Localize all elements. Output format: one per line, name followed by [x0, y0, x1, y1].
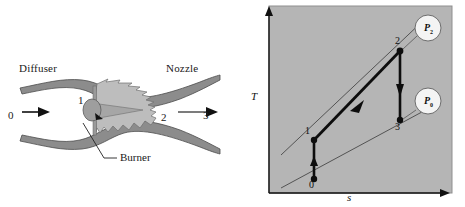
s-axis-label: s — [347, 192, 351, 203]
inlet-flow-arrow — [22, 107, 50, 117]
burner-callout-label: Burner — [120, 152, 151, 163]
t-axis-label: T — [251, 91, 257, 102]
state-label-0: 0 — [309, 180, 314, 190]
state-label-1: 1 — [305, 126, 310, 136]
ramjet-schematic-panel: Diffuser Nozzle 0 1 2 3 Burner — [0, 0, 233, 207]
station-label-1: 1 — [78, 95, 84, 106]
state-point-1 — [311, 137, 317, 143]
station-label-3: 3 — [203, 110, 209, 121]
state-point-2 — [397, 48, 404, 55]
station-label-0: 0 — [8, 110, 14, 121]
diffuser-label: Diffuser — [19, 63, 57, 74]
isobar-label-upper-text: P2 — [424, 23, 433, 35]
isobar-label-lower-sub: 0 — [430, 102, 433, 108]
outlet-flow-arrow — [178, 107, 218, 117]
ramjet-schematic-svg — [0, 0, 233, 207]
ts-diagram-panel: T s 0 1 2 3 P2 P0 — [233, 0, 465, 207]
nozzle-label: Nozzle — [166, 63, 198, 74]
state-label-3: 3 — [395, 122, 400, 132]
isobar-label-lower-text: P0 — [424, 96, 433, 108]
figure-root: Diffuser Nozzle 0 1 2 3 Burner — [0, 0, 465, 207]
isobar-label-upper-sub: 2 — [430, 29, 433, 35]
state-label-2: 2 — [395, 36, 400, 46]
station-label-2: 2 — [161, 112, 167, 123]
